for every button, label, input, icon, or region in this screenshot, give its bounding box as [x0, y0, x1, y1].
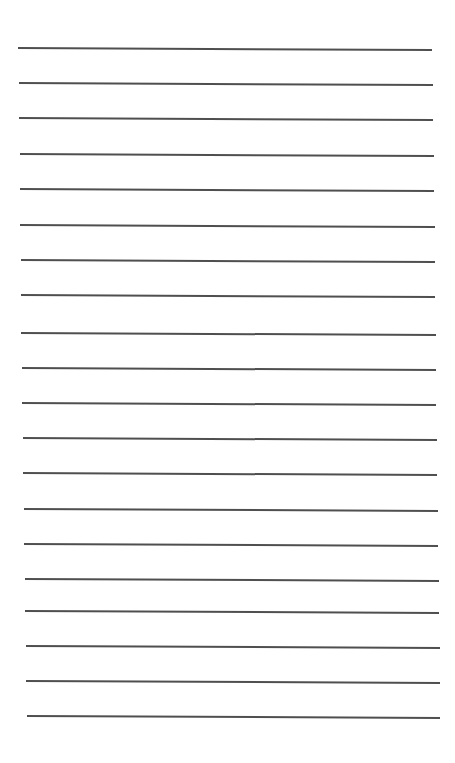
- ruled-line: [23, 437, 437, 441]
- ruled-line: [27, 715, 440, 719]
- ruled-line: [22, 402, 436, 406]
- ruled-line: [22, 367, 436, 371]
- ruled-line: [25, 578, 439, 582]
- ruled-line: [18, 47, 432, 51]
- ruled-line: [21, 259, 435, 263]
- ruled-line: [23, 472, 437, 476]
- ruled-line: [20, 224, 435, 228]
- ruled-line: [21, 294, 435, 298]
- lined-paper-page: [0, 0, 455, 763]
- ruled-line: [19, 117, 433, 121]
- ruled-line: [24, 508, 438, 512]
- ruled-line: [19, 82, 433, 86]
- ruled-line: [24, 543, 438, 547]
- ruled-line: [25, 610, 439, 614]
- ruled-line: [21, 332, 436, 336]
- ruled-line: [26, 680, 440, 684]
- ruled-line: [26, 645, 440, 649]
- ruled-line: [20, 188, 434, 192]
- ruled-line: [20, 153, 434, 157]
